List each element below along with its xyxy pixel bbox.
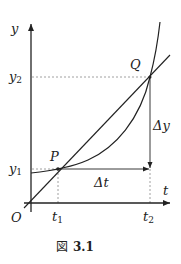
y2-sub: 2 bbox=[16, 75, 22, 85]
t2-sub: 2 bbox=[148, 215, 154, 225]
y1-sub: 1 bbox=[16, 167, 22, 177]
figure: y t O Q P y2 y1 t1 t2 Δt Δy 図3.1 bbox=[0, 0, 181, 264]
t-axis-label: t bbox=[163, 184, 168, 197]
figure-caption: 図3.1 bbox=[56, 237, 94, 254]
point-q-label: Q bbox=[130, 58, 141, 71]
t1-sub: 1 bbox=[57, 215, 63, 225]
caption-prefix: 図 bbox=[56, 240, 68, 254]
y-axis-label: y bbox=[11, 22, 18, 35]
caption-number: 3.1 bbox=[73, 240, 94, 254]
y1-tick-label: y1 bbox=[9, 162, 22, 177]
origin-label: O bbox=[11, 211, 22, 224]
point-p-dot bbox=[56, 167, 60, 171]
point-p-label: P bbox=[50, 150, 59, 163]
y2-tick-label: y2 bbox=[9, 70, 22, 85]
t2-tick-label: t2 bbox=[143, 210, 154, 225]
t1-tick-label: t1 bbox=[52, 210, 63, 225]
point-q-dot bbox=[149, 76, 152, 79]
guide-lines bbox=[32, 77, 150, 203]
delta-t-label: Δt bbox=[94, 176, 109, 189]
delta-y-label: Δy bbox=[153, 119, 170, 132]
